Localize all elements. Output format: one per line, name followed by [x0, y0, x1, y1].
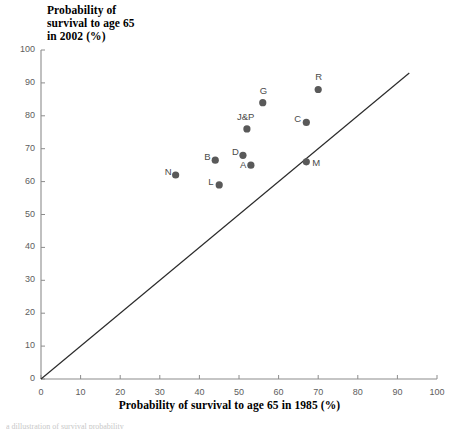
- x-tick-label-50: 50: [224, 387, 254, 397]
- point-label-c: C: [294, 113, 301, 124]
- point-label-m: M: [312, 157, 320, 168]
- point-label-n: N: [165, 166, 172, 177]
- data-point-m: [303, 158, 310, 165]
- point-label-r: R: [315, 71, 322, 82]
- x-tick-label-40: 40: [184, 387, 214, 397]
- point-label-l: L: [208, 176, 213, 187]
- y-tick-label-20: 20: [5, 307, 35, 317]
- point-label-d: D: [232, 146, 239, 157]
- x-tick-label-70: 70: [303, 387, 333, 397]
- data-point-r: [315, 86, 322, 93]
- data-point-l: [216, 181, 223, 188]
- y-tick-label-0: 0: [5, 373, 35, 383]
- y-tick-label-100: 100: [5, 44, 35, 54]
- data-point-markers: [172, 86, 322, 189]
- x-tick-label-100: 100: [422, 387, 452, 397]
- x-tick-label-10: 10: [66, 387, 96, 397]
- y-tick-label-90: 90: [5, 77, 35, 87]
- data-point-d: [239, 152, 246, 159]
- y-tick-label-10: 10: [5, 340, 35, 350]
- point-label-jandp: J&P: [237, 111, 254, 122]
- plot-area: [0, 0, 459, 431]
- x-tick-label-0: 0: [26, 387, 56, 397]
- x-axis-title: Probability of survival to age 65 in 198…: [0, 399, 459, 411]
- y-tick-label-60: 60: [5, 176, 35, 186]
- scatter-chart: Probability of survival to age 65 in 200…: [0, 0, 459, 431]
- x-tick-label-20: 20: [105, 387, 135, 397]
- x-tick-label-80: 80: [343, 387, 373, 397]
- data-point-jandp: [243, 125, 250, 132]
- data-point-g: [259, 99, 266, 106]
- x-tick-label-90: 90: [382, 387, 412, 397]
- data-point-b: [212, 157, 219, 164]
- x-tick-label-60: 60: [264, 387, 294, 397]
- reference-line-diagonal: [41, 73, 409, 379]
- point-label-a: A: [240, 159, 246, 170]
- y-tick-label-70: 70: [5, 143, 35, 153]
- data-point-c: [303, 119, 310, 126]
- data-point-a: [247, 162, 254, 169]
- cutoff-caption-text: a dillustration of survival probability: [6, 422, 206, 429]
- point-label-g: G: [260, 85, 267, 96]
- y-tick-label-80: 80: [5, 110, 35, 120]
- x-tick-label-30: 30: [145, 387, 175, 397]
- y-tick-label-30: 30: [5, 274, 35, 284]
- point-label-b: B: [204, 151, 210, 162]
- y-tick-label-40: 40: [5, 241, 35, 251]
- y-tick-label-50: 50: [5, 209, 35, 219]
- data-point-n: [172, 171, 179, 178]
